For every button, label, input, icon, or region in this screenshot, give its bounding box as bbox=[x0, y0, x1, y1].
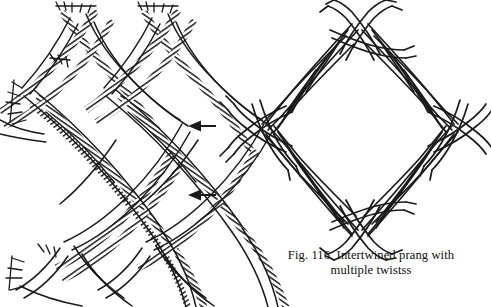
caption-line-2: multiple twistss bbox=[256, 263, 486, 278]
figure-caption: Fig. 116. Intertwined prang with multipl… bbox=[256, 248, 486, 278]
figure-116: Fig. 116. Intertwined prang with multipl… bbox=[0, 0, 491, 307]
caption-line-1: Fig. 116. Intertwined prang with bbox=[256, 248, 486, 263]
